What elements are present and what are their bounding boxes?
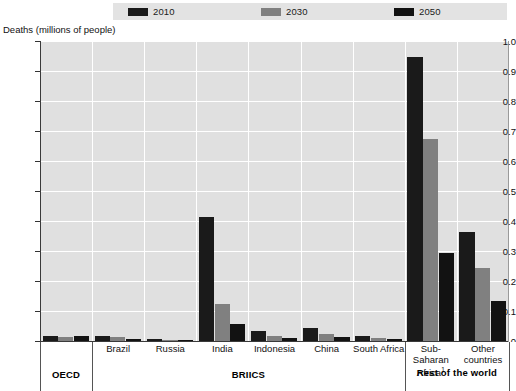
- y-tick-label: 0.9: [482, 66, 516, 77]
- y-tick-mark: [35, 101, 40, 102]
- y-tick-mark: [35, 41, 40, 42]
- legend-item-2050: 2050: [394, 3, 441, 20]
- y-tick-label: 0.1: [482, 306, 516, 317]
- gridline-horizontal: [40, 41, 509, 42]
- category-label-other-countries: Othercountries: [457, 344, 509, 365]
- y-tick-label: 0.7: [482, 126, 516, 137]
- bar-china-2030: [319, 334, 334, 341]
- y-tick-mark: [35, 71, 40, 72]
- bar-china-2010: [303, 328, 318, 342]
- category-label-india: India: [196, 344, 248, 355]
- bar-indonesia-2010: [251, 331, 266, 342]
- bar-sub-saharan-africa-2010: [407, 57, 422, 341]
- y-tick-mark: [35, 251, 40, 252]
- category-label-russia: Russia: [144, 344, 196, 355]
- legend-item-2030: 2030: [261, 3, 308, 20]
- y-tick-label: 1.0: [482, 36, 516, 47]
- gridline-horizontal: [40, 191, 509, 192]
- gridline-horizontal: [40, 101, 509, 102]
- legend-label-2030: 2030: [286, 7, 308, 17]
- y-tick-label: 0.6: [482, 156, 516, 167]
- bar-india-2030: [215, 304, 230, 342]
- y-tick-label: 0.4: [482, 216, 516, 227]
- group-separator-1: [92, 342, 93, 391]
- gridline-vertical: [144, 41, 145, 341]
- gridline-horizontal: [40, 221, 509, 222]
- category-label-south-africa: South Africa: [353, 344, 405, 355]
- group-label-rest-of-the-world: Rest of the world: [405, 367, 509, 378]
- bar-sub-saharan-africa-2030: [423, 139, 438, 342]
- category-label-brazil: Brazil: [92, 344, 144, 355]
- y-tick-mark: [35, 281, 40, 282]
- gridline-horizontal: [40, 161, 509, 162]
- legend-item-2010: 2010: [128, 3, 175, 20]
- gridline-vertical: [457, 41, 458, 341]
- bar-india-2050: [230, 324, 245, 341]
- group-label-oecd: OECD: [40, 369, 92, 380]
- gridline-vertical: [353, 41, 354, 341]
- bar-other-countries-2010: [459, 232, 474, 342]
- gridline-vertical: [405, 41, 406, 341]
- gridline-horizontal: [40, 131, 509, 132]
- group-separator-3: [509, 342, 510, 391]
- category-label-zone: BrazilRussiaIndiaIndonesiaChinaSouth Afr…: [0, 342, 516, 391]
- gridline-vertical: [301, 41, 302, 341]
- y-tick-mark: [35, 191, 40, 192]
- y-tick-label: 0.3: [482, 246, 516, 257]
- category-label-china: China: [301, 344, 353, 355]
- y-tick-label: 0.5: [482, 186, 516, 197]
- group-separator-0: [40, 342, 41, 391]
- y-tick-mark: [35, 131, 40, 132]
- legend-swatch-2030: [261, 8, 281, 16]
- y-axis-line: [40, 41, 41, 342]
- gridline-vertical: [248, 41, 249, 341]
- y-tick-label: 0.2: [482, 276, 516, 287]
- y-tick-mark: [35, 221, 40, 222]
- gridline-vertical: [196, 41, 197, 341]
- legend-label-2050: 2050: [419, 7, 441, 17]
- gridline-horizontal: [40, 71, 509, 72]
- y-tick-mark: [35, 311, 40, 312]
- y-tick-mark: [35, 161, 40, 162]
- legend-swatch-2010: [128, 8, 148, 16]
- gridline-vertical: [92, 41, 93, 341]
- group-label-briics: BRIICS: [92, 369, 405, 380]
- legend-label-2010: 2010: [153, 7, 175, 17]
- bar-india-2010: [199, 217, 214, 341]
- legend: 2010 2030 2050: [113, 3, 507, 20]
- y-tick-label: 0.8: [482, 96, 516, 107]
- legend-swatch-2050: [394, 8, 414, 16]
- category-label-indonesia: Indonesia: [248, 344, 300, 355]
- bar-sub-saharan-africa-2050: [439, 253, 454, 342]
- y-axis-title: Deaths (millions of people): [3, 24, 115, 35]
- plot-area: [40, 41, 509, 341]
